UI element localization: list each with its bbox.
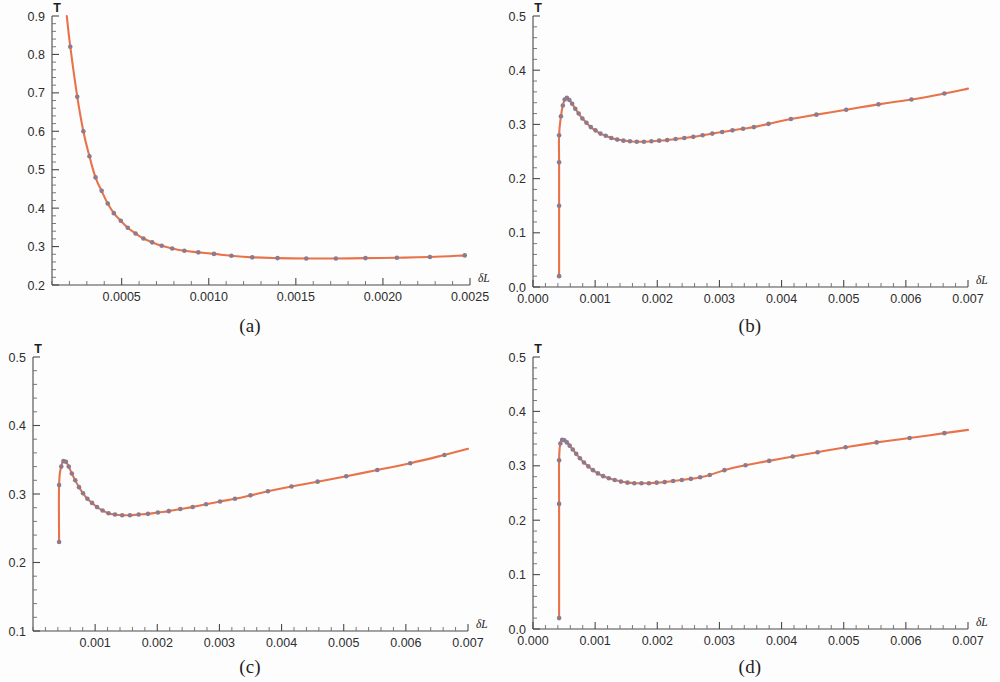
data-point-marker xyxy=(442,453,447,458)
y-tick-label: 0.2 xyxy=(9,556,26,570)
data-point-marker xyxy=(647,481,652,486)
data-point-marker xyxy=(561,103,566,108)
x-tick-label: 0.0010 xyxy=(190,290,228,304)
x-tick-label: 0.007 xyxy=(952,634,983,648)
data-point-marker xyxy=(156,510,161,515)
data-point-marker xyxy=(673,137,678,142)
data-point-marker xyxy=(567,98,572,103)
data-point-marker xyxy=(634,139,639,144)
data-point-marker xyxy=(603,133,608,138)
data-point-marker xyxy=(588,125,593,130)
data-point-marker xyxy=(691,135,696,140)
data-point-marker xyxy=(580,116,585,121)
data-point-marker xyxy=(766,122,771,127)
x-tick-label: 0.006 xyxy=(890,634,921,648)
data-point-marker xyxy=(170,246,175,251)
data-curve xyxy=(559,430,968,618)
data-point-marker xyxy=(166,509,171,514)
panel-b: 0.0000.0010.0020.0030.0040.0050.0060.007… xyxy=(500,0,1000,341)
data-point-marker xyxy=(720,130,725,135)
y-tick-label: 0.2 xyxy=(509,514,526,528)
data-point-marker xyxy=(106,511,111,516)
data-point-marker xyxy=(77,485,82,490)
data-point-marker xyxy=(593,128,598,133)
data-point-marker xyxy=(573,106,578,111)
x-tick-label: 0.0020 xyxy=(364,290,402,304)
data-point-marker xyxy=(233,497,238,502)
data-point-marker xyxy=(722,468,727,473)
data-point-marker xyxy=(615,137,620,142)
y-tick-label: 0.4 xyxy=(509,405,526,419)
data-point-marker xyxy=(586,464,591,469)
y-tick-label: 0.2 xyxy=(509,172,526,186)
x-axis-title: δL xyxy=(478,272,490,284)
data-point-marker xyxy=(743,463,748,468)
data-point-marker xyxy=(68,44,73,49)
data-point-marker xyxy=(128,513,133,518)
data-curve xyxy=(559,89,968,277)
x-tick-label: 0.001 xyxy=(580,634,611,648)
x-tick-label: 0.0025 xyxy=(451,290,489,304)
data-point-marker xyxy=(682,136,687,141)
y-axis-title: T xyxy=(534,1,542,15)
y-axis-title: T xyxy=(34,342,42,356)
data-point-marker xyxy=(125,225,130,230)
y-tick-label: 0.4 xyxy=(9,419,26,433)
panel-b-plot: 0.0000.0010.0020.0030.0040.0050.0060.007… xyxy=(500,0,1000,341)
data-point-marker xyxy=(81,129,86,134)
data-point-marker xyxy=(395,255,400,260)
x-tick-label: 0.007 xyxy=(452,636,483,650)
data-point-marker xyxy=(591,468,596,473)
data-point-marker xyxy=(596,471,601,476)
data-point-marker xyxy=(557,458,562,463)
data-point-marker xyxy=(334,256,339,261)
data-point-marker xyxy=(557,160,562,165)
y-axis-title: T xyxy=(534,342,542,356)
y-tick-label: 0.5 xyxy=(9,351,26,365)
x-tick-label: 0.003 xyxy=(704,634,735,648)
y-axis-title: T xyxy=(53,1,61,15)
data-point-marker xyxy=(582,460,587,465)
y-tick-label: 0.0 xyxy=(509,281,526,295)
data-point-marker xyxy=(789,117,794,122)
data-point-marker xyxy=(570,447,575,452)
data-point-marker xyxy=(942,91,947,96)
data-point-marker xyxy=(146,512,151,517)
x-axis-title: δL xyxy=(976,616,988,628)
y-tick-label: 0.3 xyxy=(28,240,45,254)
y-tick-label: 0.6 xyxy=(28,125,45,139)
data-point-marker xyxy=(625,480,630,485)
data-point-marker xyxy=(87,154,92,159)
data-point-marker xyxy=(57,483,62,488)
panel-a: 0.00050.00100.00150.00200.00250.20.30.40… xyxy=(0,0,500,341)
data-point-marker xyxy=(567,443,572,448)
data-point-marker xyxy=(275,256,280,261)
data-curve xyxy=(59,449,468,542)
data-point-marker xyxy=(159,244,164,249)
data-point-marker xyxy=(767,459,772,464)
data-point-marker xyxy=(844,107,849,112)
data-point-marker xyxy=(584,120,589,125)
y-tick-label: 0.9 xyxy=(28,10,45,24)
panel-a-caption: (a) xyxy=(0,315,500,337)
data-point-marker xyxy=(190,505,195,510)
data-point-marker xyxy=(90,501,95,506)
x-tick-label: 0.007 xyxy=(952,292,983,306)
data-point-marker xyxy=(557,133,562,138)
data-point-marker xyxy=(815,450,820,455)
data-point-marker xyxy=(710,131,715,136)
panel-d-caption: (d) xyxy=(500,656,1000,678)
y-tick-label: 0.8 xyxy=(28,48,45,62)
data-point-marker xyxy=(73,478,78,483)
x-tick-label: 0.006 xyxy=(390,636,421,650)
data-point-marker xyxy=(428,255,433,260)
data-point-marker xyxy=(570,102,575,107)
data-point-marker xyxy=(557,502,562,507)
x-tick-label: 0.001 xyxy=(80,636,111,650)
panel-d-plot: 0.0000.0010.0020.0030.0040.0050.0060.007… xyxy=(500,341,1000,682)
data-point-marker xyxy=(375,468,380,473)
data-point-marker xyxy=(557,616,562,621)
data-point-marker xyxy=(93,175,98,180)
data-point-marker xyxy=(619,479,624,484)
y-tick-label: 0.3 xyxy=(509,459,526,473)
